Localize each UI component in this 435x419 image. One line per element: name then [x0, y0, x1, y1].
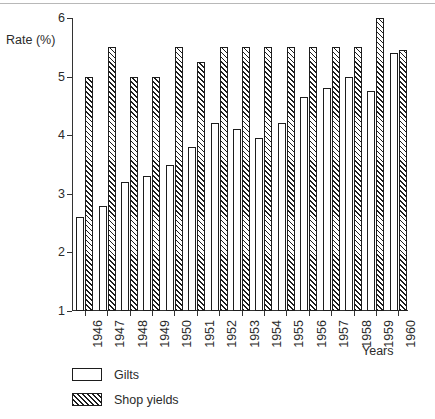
y-tick-mark	[67, 135, 72, 136]
x-tick-mark	[309, 311, 310, 316]
bar-shop-yields-1952	[220, 47, 228, 311]
bar-shop-yields-1946	[85, 77, 93, 311]
bar-shop-yields-1947	[108, 47, 116, 311]
x-tick-label: 1956	[315, 320, 329, 348]
bar-gilts-1954	[255, 138, 263, 311]
bar-gilts-1948	[121, 182, 129, 311]
bar-gilts-1951	[188, 147, 196, 311]
bar-gilts-1950	[166, 165, 174, 312]
x-tick-label: 1952	[225, 320, 239, 348]
x-tick-mark	[130, 311, 131, 316]
y-tick-label: 1	[58, 304, 65, 318]
bar-gilts-1958	[345, 77, 353, 311]
page-top-rule	[0, 3, 435, 4]
bar-shop-yields-1956	[309, 47, 317, 311]
y-tick-label: 6	[58, 11, 65, 25]
y-tick-label: 2	[58, 245, 65, 259]
x-tick-mark	[85, 311, 86, 316]
bar-shop-yields-1960	[399, 50, 407, 311]
legend-swatch-hatched	[72, 393, 102, 406]
bar-gilts-1955	[278, 123, 286, 311]
plot-area: 123456 194619471948194919501951195219531…	[72, 18, 408, 311]
bar-gilts-1956	[300, 97, 308, 311]
bar-gilts-1957	[323, 88, 331, 311]
chart-page: Rate (%) Years 123456 194619471948194919…	[0, 0, 435, 419]
x-tick-mark	[107, 311, 108, 316]
bar-shop-yields-1948	[130, 77, 138, 311]
bar-gilts-1949	[143, 176, 151, 311]
bar-gilts-1953	[233, 129, 241, 311]
y-tick-label: 3	[58, 187, 65, 201]
x-tick-label: 1957	[337, 320, 351, 348]
bar-shop-yields-1958	[354, 47, 362, 311]
y-tick-mark	[67, 77, 72, 78]
y-tick-mark	[67, 311, 72, 312]
legend-label-gilts: Gilts	[114, 368, 139, 382]
bar-gilts-1947	[99, 206, 107, 311]
bar-gilts-1960	[390, 53, 398, 311]
x-tick-mark	[219, 311, 220, 316]
bar-shop-yields-1954	[264, 47, 272, 311]
y-tick-label: 5	[58, 70, 65, 84]
x-tick-label: 1946	[91, 320, 105, 348]
bar-shop-yields-1957	[332, 47, 340, 311]
x-tick-mark	[174, 311, 175, 316]
bar-gilts-1959	[367, 91, 375, 311]
x-tick-mark	[354, 311, 355, 316]
x-tick-mark	[264, 311, 265, 316]
x-tick-label: 1951	[203, 320, 217, 348]
x-tick-mark	[242, 311, 243, 316]
bar-shop-yields-1950	[175, 47, 183, 311]
x-tick-mark	[331, 311, 332, 316]
bar-shop-yields-1953	[242, 47, 250, 311]
legend-label-shop-yields: Shop yields	[114, 393, 179, 407]
x-tick-mark	[152, 311, 153, 316]
bar-shop-yields-1959	[376, 18, 384, 311]
chart-legend: Gilts Shop yields	[72, 362, 179, 412]
y-tick-label: 4	[58, 128, 65, 142]
bar-shop-yields-1949	[152, 77, 160, 311]
y-tick-mark	[67, 252, 72, 253]
x-tick-label: 1960	[404, 320, 418, 348]
bar-shop-yields-1955	[287, 47, 295, 311]
x-tick-mark	[376, 311, 377, 316]
y-tick-mark	[67, 194, 72, 195]
x-tick-label: 1954	[270, 320, 284, 348]
x-tick-label: 1958	[360, 320, 374, 348]
x-tick-label: 1948	[136, 320, 150, 348]
x-tick-label: 1950	[180, 320, 194, 348]
x-tick-mark	[197, 311, 198, 316]
y-tick-mark	[67, 18, 72, 19]
x-tick-label: 1955	[292, 320, 306, 348]
x-tick-mark	[398, 311, 399, 316]
x-tick-label: 1949	[158, 320, 172, 348]
legend-swatch-white	[72, 368, 102, 381]
bar-shop-yields-1951	[197, 62, 205, 311]
bar-gilts-1952	[211, 123, 219, 311]
legend-item-shop-yields: Shop yields	[72, 387, 179, 412]
y-axis-title: Rate (%)	[6, 33, 55, 47]
bar-gilts-1946	[76, 217, 84, 311]
x-tick-mark	[286, 311, 287, 316]
y-axis-line	[72, 18, 73, 311]
x-tick-label: 1959	[382, 320, 396, 348]
x-tick-label: 1953	[248, 320, 262, 348]
legend-item-gilts: Gilts	[72, 362, 179, 387]
x-tick-label: 1947	[113, 320, 127, 348]
